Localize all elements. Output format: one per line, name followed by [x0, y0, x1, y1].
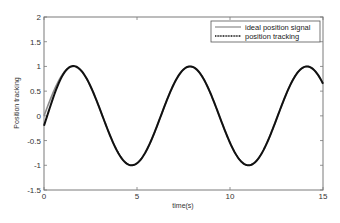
chart-canvas: -1.5-1-0.500.511.52 051015 time(s) Posit… — [0, 0, 340, 223]
legend-label-tracking: position tracking — [245, 32, 299, 41]
y-tick-label: 1 — [37, 62, 42, 71]
y-tick-labels: -1.5-1-0.500.511.52 — [27, 13, 41, 195]
x-tick-label: 0 — [42, 192, 47, 201]
plot-area — [44, 17, 323, 190]
legend: ideal position signal position tracking — [211, 21, 320, 42]
y-tick-label: 0 — [37, 112, 42, 121]
x-tick-label: 5 — [135, 192, 140, 201]
y-tick-label: 1.5 — [30, 38, 42, 47]
y-tick-label: -1.5 — [27, 186, 41, 195]
y-tick-label: 2 — [37, 13, 42, 22]
y-axis-label: Position tracking — [13, 77, 21, 128]
y-tick-label: 0.5 — [30, 87, 42, 96]
x-tick-label: 10 — [226, 192, 235, 201]
y-tick-label: -0.5 — [27, 137, 41, 146]
y-tick-label: -1 — [34, 161, 42, 170]
legend-label-ideal: ideal position signal — [245, 23, 311, 32]
x-axis-label: time(s) — [172, 202, 193, 210]
x-tick-labels: 051015 — [42, 192, 328, 201]
x-tick-label: 15 — [319, 192, 328, 201]
